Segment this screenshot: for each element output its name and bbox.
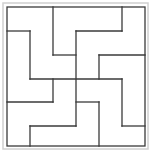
tiling-diagram bbox=[0, 0, 152, 150]
puzzle-grid bbox=[0, 0, 152, 150]
piece-edges bbox=[7, 7, 145, 146]
